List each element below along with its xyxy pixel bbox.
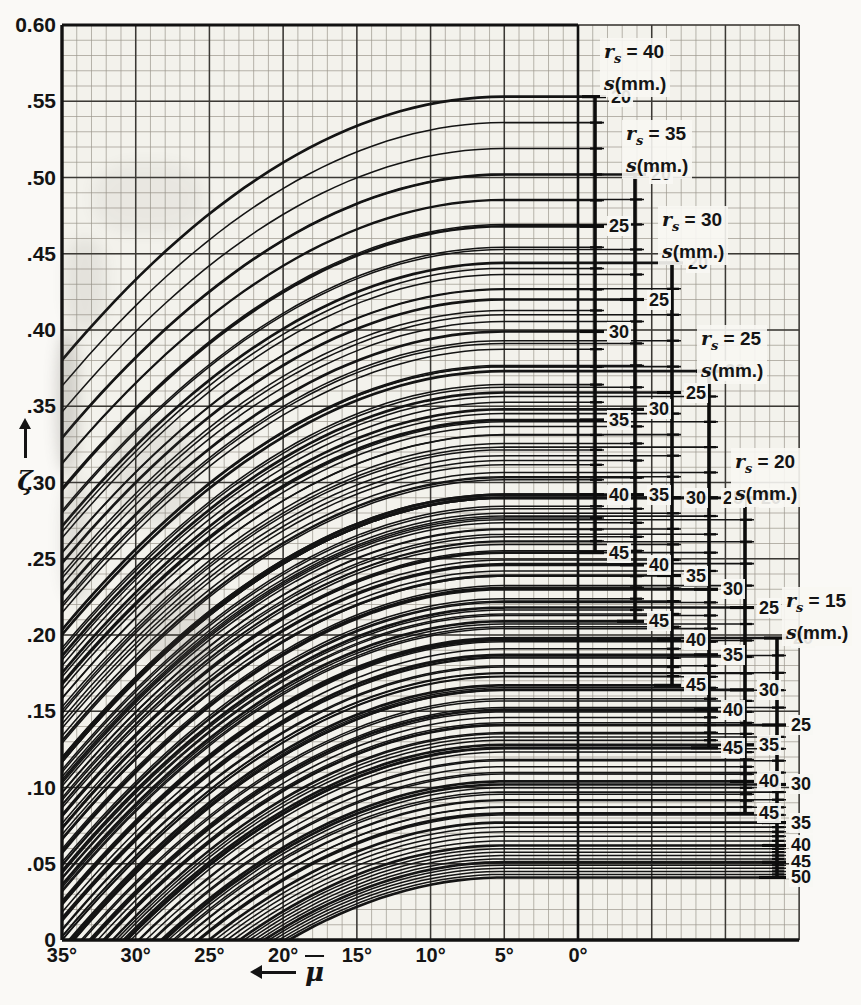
scale-tick-label: 25 xyxy=(684,383,708,403)
scale-tick-label: 45 xyxy=(647,611,671,631)
scan-smudge xyxy=(92,162,204,234)
scale-tick-label: 40 xyxy=(647,555,671,575)
scale-tick-label: 35 xyxy=(607,410,631,430)
scan-smudge xyxy=(110,420,195,525)
scale-tick-label: 35 xyxy=(721,645,745,665)
y-axis-tick-label: .20 xyxy=(6,623,56,647)
x-axis-tick-label: 15° xyxy=(342,944,372,967)
x-axis-tick-label: 35° xyxy=(47,944,77,967)
y-axis-tick-label: .45 xyxy=(6,242,56,266)
scale-header: rs = 40s(mm.) xyxy=(600,38,670,97)
scale-tick-label: 40 xyxy=(757,771,781,791)
y-axis-tick-label: .35 xyxy=(6,394,56,418)
scale-tick-label: 25 xyxy=(789,715,813,735)
scale-tick-label: 25 xyxy=(607,216,631,236)
x-axis-tick-label: 10° xyxy=(415,944,445,967)
y-axis-tick-label: .05 xyxy=(6,852,56,876)
scale-tick-label: 45 xyxy=(684,675,708,695)
y-axis-tick-label: .40 xyxy=(6,318,56,342)
scale-tick-label: 35 xyxy=(789,813,813,833)
mu-axis-symbol: μ xyxy=(305,959,324,985)
scale-tick-label: 40 xyxy=(684,630,708,650)
x-axis-tick-label: 5° xyxy=(495,944,514,967)
y-axis-tick-label: .10 xyxy=(6,776,56,800)
scanned-chart-page: ζ μ 202530354045rs = 40s(mm.)20253035404… xyxy=(0,0,861,1005)
up-arrow-icon xyxy=(18,420,32,458)
scale-tick-label: 30 xyxy=(721,579,745,599)
scale-tick-label: 35 xyxy=(684,566,708,586)
x-axis-tick-label: 30° xyxy=(121,944,151,967)
scale-tick-label: 30 xyxy=(607,322,631,342)
left-arrow-icon xyxy=(252,965,296,979)
scale-header: rs = 25s(mm.) xyxy=(697,325,767,384)
scale-tick-label: 40 xyxy=(607,485,631,505)
scale-tick-label: 35 xyxy=(647,485,671,505)
scan-smudge xyxy=(56,332,78,472)
scale-tick-label: 50 xyxy=(789,867,813,887)
y-axis-tick-label: .50 xyxy=(6,166,56,190)
label-overlay: ζ μ 202530354045rs = 40s(mm.)20253035404… xyxy=(0,0,861,1005)
scale-tick-label: 40 xyxy=(721,700,745,720)
scale-tick-label: 30 xyxy=(647,399,671,419)
scale-tick-label: 30 xyxy=(757,680,781,700)
scale-header: rs = 15s(mm.) xyxy=(782,587,852,646)
y-axis-tick-label: .15 xyxy=(6,699,56,723)
scale-tick-label: 45 xyxy=(757,803,781,823)
scale-tick-label: 45 xyxy=(721,738,745,758)
y-axis-tick-label: 0.60 xyxy=(6,13,56,37)
scan-smudge xyxy=(168,640,220,696)
scale-tick-label: 30 xyxy=(789,774,813,794)
scale-tick-label: 35 xyxy=(757,735,781,755)
scale-header: rs = 30s(mm.) xyxy=(658,206,728,265)
scale-tick-label: 25 xyxy=(647,290,671,310)
scale-header: rs = 35s(mm.) xyxy=(622,120,692,179)
scale-tick-label: 25 xyxy=(757,598,781,618)
y-axis-tick-label: .25 xyxy=(6,547,56,571)
scale-tick-label: 30 xyxy=(684,488,708,508)
x-axis-tick-label: 0° xyxy=(568,944,587,967)
x-axis-tick-label: 20° xyxy=(268,944,298,967)
x-axis-tick-label: 25° xyxy=(194,944,224,967)
y-axis-tick-label: .30 xyxy=(6,471,56,495)
scan-smudge xyxy=(64,238,106,330)
scale-tick-label: 45 xyxy=(607,543,631,563)
scale-header: rs = 20s(mm.) xyxy=(731,448,801,507)
scan-smudge xyxy=(60,480,90,600)
y-axis-tick-label: .55 xyxy=(6,89,56,113)
